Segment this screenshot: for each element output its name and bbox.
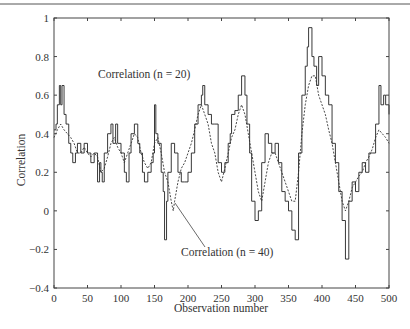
annotation-n20: Correlation (n = 20): [98, 68, 191, 81]
x-tick-label: 350: [280, 292, 297, 304]
x-tick-label: 500: [381, 292, 398, 304]
y-tick-label: 0.8: [35, 51, 49, 63]
correlation-chart: 050100150200250300350400450500 −0.4−0.20…: [0, 0, 410, 329]
x-tick-label: 50: [82, 292, 94, 304]
x-tick-label: 450: [347, 292, 364, 304]
x-tick-label: 100: [113, 292, 130, 304]
plot-area: [54, 28, 389, 259]
y-tick-label: 0.2: [35, 166, 49, 178]
y-tick-label: 0.6: [35, 89, 49, 101]
y-axis-title: Correlation: [15, 134, 27, 187]
y-tick-label: 0.4: [35, 128, 49, 140]
x-axis-title: Observation number: [174, 302, 268, 314]
y-tick-label: −0.2: [29, 243, 49, 255]
y-tick-label: 0: [44, 205, 50, 217]
x-tick-label: 150: [146, 292, 163, 304]
annotation-n40: Correlation (n = 40): [181, 246, 274, 259]
x-axis: 050100150200250300350400450500: [51, 18, 398, 304]
series-n20-line: [54, 28, 389, 259]
y-tick-label: 1: [44, 12, 50, 24]
annotation-leader-line: [175, 203, 205, 247]
x-tick-label: 400: [314, 292, 331, 304]
x-tick-label: 0: [51, 292, 57, 304]
y-tick-label: −0.4: [29, 282, 49, 294]
